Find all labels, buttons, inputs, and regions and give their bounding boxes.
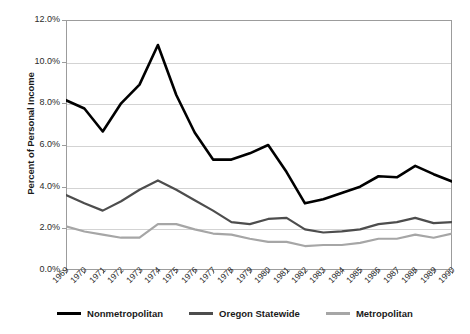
y-axis-tick-label: 6.0% — [14, 139, 60, 149]
y-axis-title: Percent of Personal Income — [25, 34, 36, 234]
y-axis-tick-label: 8.0% — [14, 97, 60, 107]
series-line-metropolitan — [66, 224, 452, 246]
legend-label: Nonmetropolitan — [87, 308, 163, 319]
legend-label: Metropolitan — [356, 308, 413, 319]
legend-swatch-icon — [57, 312, 81, 315]
y-axis-tick-label: 4.0% — [14, 181, 60, 191]
chart-legend: NonmetropolitanOregon StatewideMetropoli… — [0, 308, 470, 319]
legend-swatch-icon — [326, 312, 350, 315]
series-line-nonmetropolitan — [66, 45, 452, 203]
series-layer — [66, 20, 452, 270]
y-axis-tick-label: 2.0% — [14, 222, 60, 232]
y-axis-tick-label: 10.0% — [14, 56, 60, 66]
legend-entry[interactable]: Metropolitan — [326, 308, 413, 319]
x-axis-tick-label: 1969 — [50, 265, 70, 285]
legend-entry[interactable]: Oregon Statewide — [189, 308, 300, 319]
legend-swatch-icon — [189, 312, 213, 315]
legend-entry[interactable]: Nonmetropolitan — [57, 308, 163, 319]
y-axis-tick-label: 0.0% — [14, 264, 60, 274]
legend-label: Oregon Statewide — [219, 308, 300, 319]
chart-container: Percent of Personal Income 12.0%10.0%8.0… — [0, 0, 470, 334]
y-axis-tick-label: 12.0% — [14, 14, 60, 24]
series-line-oregon-statewide — [66, 180, 452, 232]
